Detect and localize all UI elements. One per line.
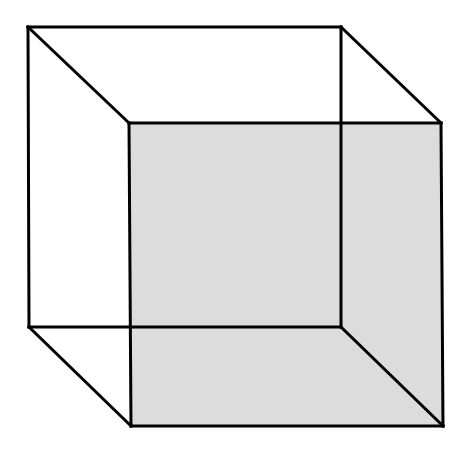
front-right-edge — [441, 123, 443, 426]
necker-cube-diagram — [0, 0, 466, 454]
back-left-edge — [28, 27, 29, 327]
front-left-edge — [129, 123, 131, 426]
